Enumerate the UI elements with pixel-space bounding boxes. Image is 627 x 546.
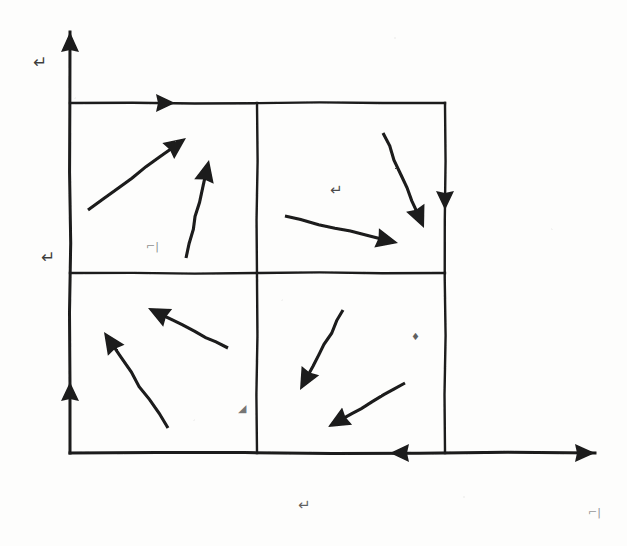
vector-q4-steep [300,310,343,390]
label-q1-inner: ↵ [330,181,343,199]
box-middle-vertical [256,103,257,453]
vector-q2-long-shaft [88,146,175,210]
vector-q4-shallow [328,383,405,427]
vector-q1-steep-shaft [383,133,418,215]
vector-q4-steep-shaft [307,310,343,378]
label-q2-inner: ⌐| [146,240,159,253]
top-edge-right-marker-icon [156,94,175,112]
sketch-canvas: ↵↵⌐|↵◢♦↵⌐| [0,0,627,546]
horizontal-axis [70,452,595,453]
vertical-axis-arrowhead-icon [61,32,79,52]
left-axis-up-marker-icon [61,382,79,401]
vector-q1-steep [383,133,424,228]
vector-q2-long [88,138,186,210]
right-edge-down-marker-icon [436,191,454,210]
vector-q2-long-arrowhead-icon [162,138,186,159]
label-y-axis-top: ↵ [33,52,47,72]
label-y-axis-middle: ↵ [41,247,55,267]
label-x-axis-center: ↵ [298,496,311,514]
label-x-axis-right: ⌐| [588,506,601,519]
vector-q1-shallow [285,216,398,248]
vector-q2-steep [186,160,214,258]
vector-q3-steep [104,332,168,428]
vector-q1-shallow-shaft [285,216,384,240]
vector-field-diagram: ↵↵⌐|↵◢♦↵⌐| [0,0,627,546]
label-q3-inner: ◢ [238,402,247,415]
vector-q2-steep-shaft [186,174,206,258]
vector-q3-shallow [148,308,228,348]
label-q4-inner: ♦ [411,331,420,342]
box-right-edge [445,103,446,453]
annotations-layer: ↵↵⌐|↵◢♦↵⌐| [33,52,601,519]
bottom-axis-left-marker-icon [390,444,409,462]
horizontal-axis-arrowhead-icon [575,444,595,462]
vector-q4-shallow-shaft [340,383,405,420]
grid-layer [70,102,446,453]
vector-q3-steep-arrowhead-icon [104,332,125,356]
axes-layer [61,32,595,462]
vector-q3-shallow-shaft [161,314,228,348]
vector-q3-steep-shaft [112,344,168,428]
